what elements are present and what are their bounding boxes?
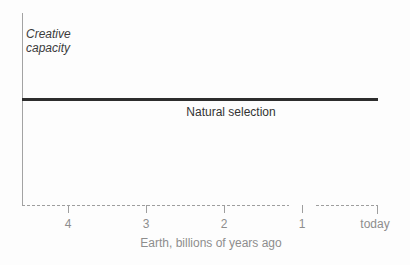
x-tick-label-1: 1 <box>299 217 306 231</box>
x-tick-mark-1 <box>302 205 303 213</box>
natural-selection-line <box>22 98 378 101</box>
x-tick-mark-2 <box>224 205 225 213</box>
y-axis-title: Creative capacity <box>26 28 96 55</box>
x-axis-line-segment-left <box>22 205 289 206</box>
x-tick-label-3: 3 <box>143 217 150 231</box>
natural-selection-label: Natural selection <box>186 105 275 119</box>
x-tick-label-4: 4 <box>65 217 72 231</box>
x-tick-label-today: today <box>360 217 389 231</box>
x-tick-label-2: 2 <box>221 217 228 231</box>
y-axis-line <box>22 13 23 206</box>
x-axis-title: Earth, billions of years ago <box>140 236 281 250</box>
x-tick-mark-4 <box>68 205 69 213</box>
figure-creative-capacity-chart: Creative capacity Natural selection 4 3 … <box>0 0 410 265</box>
x-tick-mark-today <box>377 205 378 214</box>
x-tick-mark-3 <box>146 205 147 213</box>
x-axis-line-segment-right <box>316 205 377 206</box>
